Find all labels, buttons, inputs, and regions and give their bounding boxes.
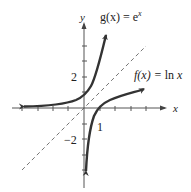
- ln-label-ln: ln: [165, 68, 177, 82]
- exp-curve-path: [24, 35, 106, 107]
- svg-text:g(x) = ex: g(x) = ex: [100, 9, 142, 24]
- tick-label-y-neg2: −2: [64, 133, 77, 147]
- exp-label: g(x) = ex: [100, 9, 142, 24]
- ln-label-x: x: [176, 68, 183, 82]
- graph-figure: x y 2 −2 1 g(x) = ex f(x) = ln x: [0, 0, 191, 192]
- ln-label-func: f(x) =: [134, 68, 165, 82]
- ln-curve-path: [86, 89, 144, 171]
- svg-text:f(x) = ln x: f(x) = ln x: [134, 68, 183, 82]
- tick-label-x-1: 1: [97, 120, 103, 134]
- exp-label-exponent: x: [137, 9, 142, 18]
- y-axis-label: y: [79, 11, 85, 23]
- x-axis-label: x: [172, 102, 178, 114]
- ln-label: f(x) = ln x: [134, 68, 183, 82]
- exp-label-text: g(x) = e: [100, 10, 138, 24]
- tick-label-y-2: 2: [71, 70, 77, 84]
